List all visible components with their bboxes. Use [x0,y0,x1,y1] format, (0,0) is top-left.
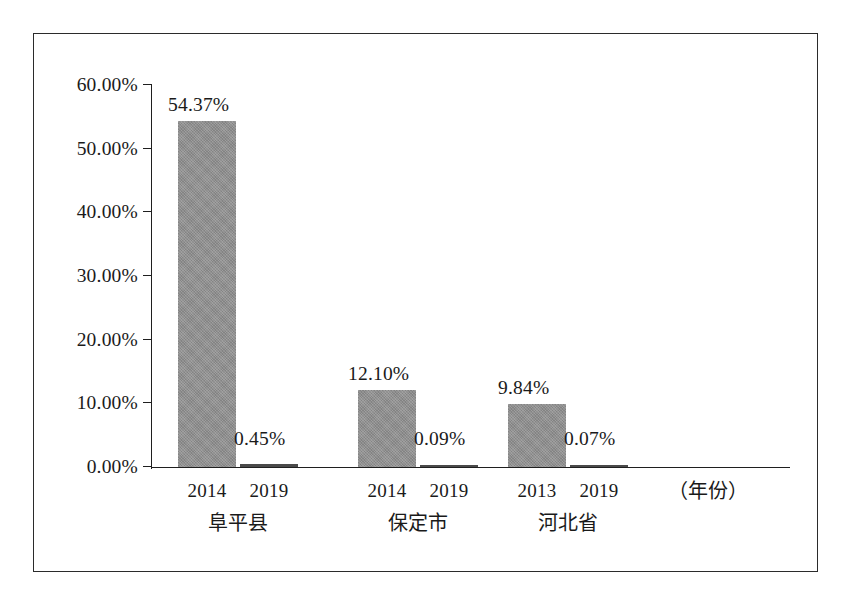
bar-value-label: 9.84% [498,378,549,398]
y-axis-tick [143,275,152,276]
chart-figure: 0.00%10.00%20.00%30.00%40.00%50.00%60.00… [0,0,847,602]
y-axis-tick [143,148,152,149]
y-axis-tick [143,466,152,467]
y-axis-tick [143,402,152,403]
x-axis-group-label: 保定市 [348,513,488,533]
bar [178,121,236,467]
bar-value-label: 0.45% [234,429,285,449]
bar [508,404,566,467]
bar [358,390,416,467]
bar-value-label: 0.09% [414,429,465,449]
bar-value-label: 12.10% [348,364,409,384]
y-axis-tick-label: 40.00% [42,202,138,222]
bar-value-label: 54.37% [168,95,229,115]
x-axis-year-label: 2019 [234,481,304,500]
x-axis-year-label: 2014 [172,481,242,500]
y-axis-tick-label: 20.00% [42,330,138,350]
y-axis-tick-label: 0.00% [42,457,138,477]
plot-area: 0.00%10.00%20.00%30.00%40.00%50.00%60.00… [0,0,847,602]
x-axis-year-label: 2019 [564,481,634,500]
y-axis-tick-label: 30.00% [42,266,138,286]
y-axis-tick [143,339,152,340]
bar-value-label: 0.07% [564,429,615,449]
x-axis-line [151,467,790,468]
bar [240,464,298,467]
bar [570,465,628,468]
x-axis-title: （年份） [668,481,748,501]
y-axis-tick-label: 50.00% [42,139,138,159]
x-axis-year-label: 2019 [414,481,484,500]
y-axis-tick-label: 60.00% [42,75,138,95]
y-axis-tick-label: 10.00% [42,393,138,413]
bar [420,465,478,468]
x-axis-year-label: 2013 [502,481,572,500]
x-axis-group-label: 阜平县 [168,513,308,533]
x-axis-year-label: 2014 [352,481,422,500]
y-axis-tick [143,211,152,212]
y-axis-line [151,84,152,469]
y-axis-tick [143,84,152,85]
x-axis-group-label: 河北省 [498,513,638,533]
